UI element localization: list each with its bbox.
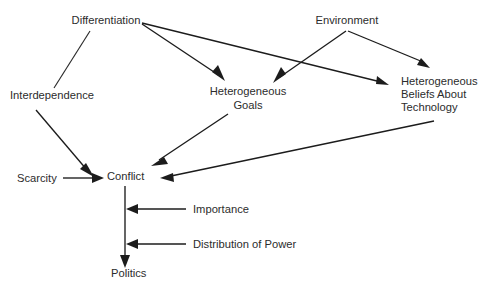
node-label-differentiation: Differentiation (72, 14, 141, 26)
edge-heterogeneous-goals-conflict (151, 114, 228, 166)
edge-importance-conflict-politics (126, 204, 186, 214)
node-label-politics: Politics (111, 267, 147, 279)
node-label-conflict: Conflict (107, 170, 145, 182)
node-label-importance: Importance (193, 203, 249, 215)
diagram-canvas: Differentiation Environment Interdepende… (0, 0, 484, 297)
node-label-heterogeneous-goals-line2: Goals (233, 99, 263, 111)
node-label-heterogeneous-beliefs-line2: Beliefs About (401, 88, 467, 100)
edge-distribution-of-power-conflict-politics (126, 239, 186, 249)
node-label-environment: Environment (316, 14, 380, 26)
node-label-heterogeneous-beliefs-line3: Technology (401, 101, 458, 113)
node-label-scarcity: Scarcity (17, 172, 57, 184)
edge-interdependence-conflict (36, 110, 94, 177)
edge-environment-heterogeneous-goals (273, 31, 346, 83)
edge-scarcity-conflict (63, 173, 104, 183)
node-label-heterogeneous-beliefs-line1: Heterogeneous (401, 75, 478, 87)
node-label-interdependence: Interdependence (10, 89, 94, 101)
edge-conflict-politics (120, 186, 130, 268)
edge-differentiation-interdependence (54, 31, 90, 88)
edge-heterogeneous-beliefs-conflict (160, 121, 434, 182)
edge-environment-heterogeneous-beliefs (348, 31, 430, 68)
node-label-distribution-of-power: Distribution of Power (193, 238, 296, 250)
node-label-heterogeneous-goals-line1: Heterogeneous (210, 85, 287, 97)
diagram-svg: Differentiation Environment Interdepende… (0, 0, 484, 297)
